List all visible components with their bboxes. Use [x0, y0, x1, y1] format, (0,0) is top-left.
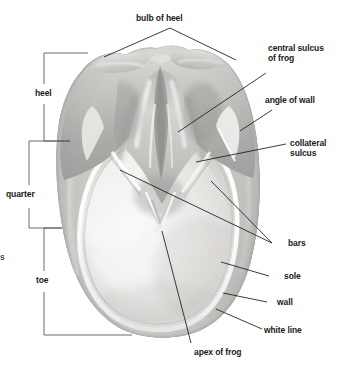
label-central-sulcus-of-frog: central sulcus of frog: [268, 44, 324, 63]
label-heel: heel: [35, 89, 52, 99]
label-wall: wall: [277, 298, 293, 308]
label-apex-of-frog: apex of frog: [194, 348, 241, 358]
hoof-body: [40, 30, 280, 360]
bracket-toe-top: [44, 228, 62, 271]
label-bars: bars: [288, 239, 306, 249]
label-central-sulcus-line2: of frog: [268, 54, 324, 64]
bracket-quarter-bottom: [29, 208, 62, 228]
label-quarter: quarter: [6, 190, 35, 200]
clipped-edge-text: s: [0, 252, 5, 263]
label-sole: sole: [284, 272, 301, 282]
label-collateral-sulcus-line2: sulcus: [290, 149, 326, 159]
label-toe: toe: [36, 276, 48, 286]
hoof-texture: [40, 30, 280, 360]
leader-white-line: [216, 309, 262, 329]
label-collateral-sulcus: collateral sulcus: [290, 139, 326, 158]
hoof-anatomy-figure: bulb of heel central sulcus of frog angl…: [0, 0, 341, 371]
label-bulb-of-heel: bulb of heel: [136, 14, 183, 24]
label-angle-of-wall: angle of wall: [265, 96, 315, 106]
label-white-line: white line: [264, 326, 302, 336]
